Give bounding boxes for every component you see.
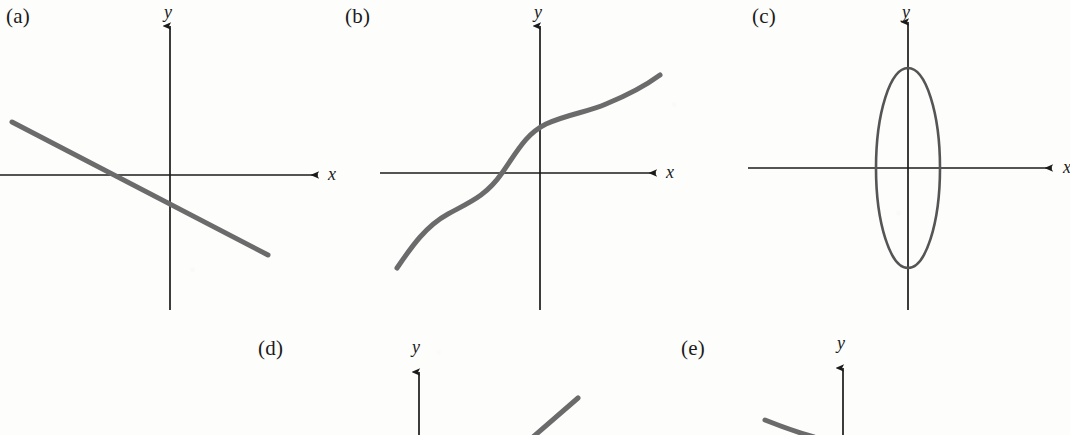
panel-e-y-axis-label: y [837,333,845,354]
panel-a-plot [0,26,318,310]
panel-a-line-graph [12,122,268,255]
panel-d-line-graph [533,398,578,435]
figure-svg [0,0,1070,435]
panel-c-plot [748,22,1052,310]
panel-c-x-axis-label: x [1063,157,1070,178]
panel-label-e: (e) [681,336,705,361]
panel-a-y-axis-label: y [164,2,172,23]
panel-d-y-axis-label: y [412,337,420,358]
panel-d-plot [419,372,578,435]
panel-label-b: (b) [345,4,370,29]
panel-label-d: (d) [258,336,283,361]
panel-b-cubic-curve [397,75,660,268]
panel-b-plot [380,26,660,310]
figure-container: (a) (b) (c) (d) (e) y x y x y x y y [0,0,1070,435]
panel-e-curve-graph [765,420,814,435]
panel-label-c: (c) [752,4,776,29]
panel-e-plot [765,368,843,435]
panel-c-y-axis-label: y [902,2,910,23]
panel-b-x-axis-label: x [666,162,674,183]
panel-a-x-axis-label: x [328,164,336,185]
panel-b-y-axis-label: y [534,2,542,23]
panel-label-a: (a) [6,4,30,29]
